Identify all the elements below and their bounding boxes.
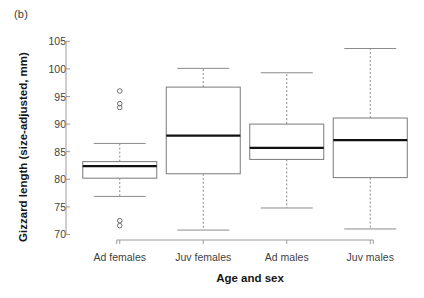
box-juv-males (333, 118, 407, 178)
outlier-point-ad-females (117, 89, 122, 94)
box-juv-females (166, 87, 240, 174)
boxplot-canvas (0, 0, 424, 298)
box-ad-males (250, 124, 324, 159)
outlier-point-ad-females (117, 223, 122, 228)
box-ad-females (83, 162, 157, 179)
boxplot-figure: (b) Gizzard length (size-adjusted, mm) 7… (0, 0, 424, 298)
outlier-point-ad-females (117, 218, 122, 223)
